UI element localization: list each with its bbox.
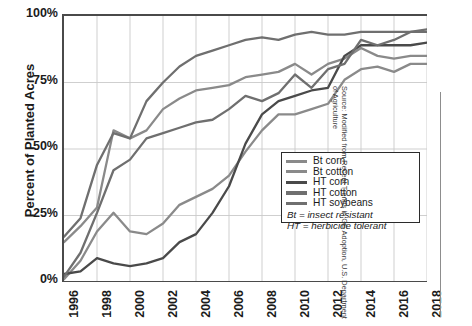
legend-swatch-icon	[286, 160, 307, 163]
x-tick-label-2002: 2002	[166, 290, 180, 318]
chart-legend: Bt cornBt cottonHT cornHT cottonHT soybe…	[281, 152, 420, 223]
x-tick-label-2010: 2010	[298, 290, 312, 318]
legend-swatch-icon	[286, 170, 307, 173]
x-tick-label-2014: 2014	[364, 290, 378, 318]
legend-swatch-icon	[286, 191, 307, 194]
x-tick-label-2004: 2004	[199, 290, 213, 318]
x-tick-label-2016: 2016	[397, 290, 411, 318]
y-tick-100: 100%	[18, 6, 58, 20]
legend-item-bt-corn: Bt corn	[286, 156, 419, 167]
x-tick-label-1998: 1998	[100, 290, 114, 318]
source-divider	[440, 92, 441, 317]
legend-note-ht: HT = herbicide tolerant	[287, 220, 419, 231]
y-axis-tick-labels: 0%25%50%75%100%	[14, 0, 58, 326]
plot-area	[62, 14, 427, 282]
y-tick-0: 0%	[18, 272, 58, 286]
x-tick-label-2006: 2006	[232, 290, 246, 318]
source-credit: Source: Modified from Recent Trends in G…	[330, 86, 349, 326]
chart-figure: Percent of Planted Acres 0%25%50%75%100%…	[0, 0, 472, 326]
x-axis-tick-labels: 1996199820002002200420062008201020122014…	[0, 288, 472, 326]
x-tick-label-2000: 2000	[133, 290, 147, 318]
legend-swatch-icon	[286, 181, 307, 184]
y-tick-50: 50%	[18, 139, 58, 153]
x-tick-label-2018: 2018	[430, 290, 444, 318]
y-tick-75: 75%	[18, 73, 58, 87]
x-tick-label-2008: 2008	[265, 290, 279, 318]
legend-note-bt: Bt = insect resistant	[287, 209, 419, 220]
legend-swatch-icon	[286, 202, 307, 205]
chart-svg	[64, 16, 427, 282]
legend-item-ht-soybeans: HT soybeans	[286, 198, 419, 209]
legend-entries: Bt cornBt cottonHT cornHT cottonHT soybe…	[286, 156, 419, 209]
legend-item-bt-cotton: Bt cotton	[286, 167, 419, 178]
y-tick-25: 25%	[18, 206, 58, 220]
x-tick-label-1996: 1996	[67, 290, 81, 318]
